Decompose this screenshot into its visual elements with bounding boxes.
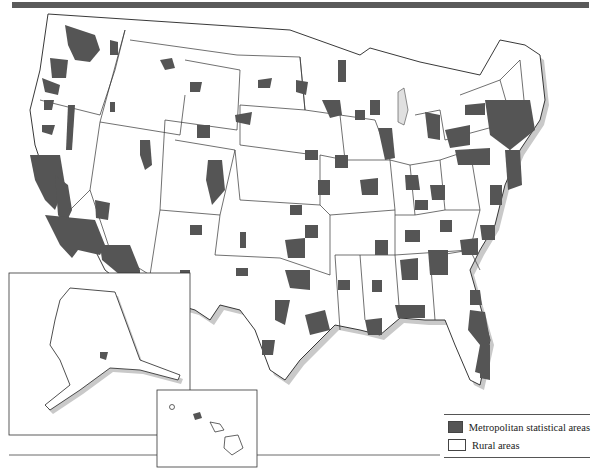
- rural-swatch: [448, 439, 466, 451]
- metro-wichita: [290, 205, 302, 215]
- metro-atlanta: [428, 250, 448, 275]
- metro-desmoines: [335, 155, 348, 168]
- map-legend: Metropolitan statistical areas Rural are…: [444, 414, 590, 458]
- metro-memphis: [375, 240, 388, 255]
- metro-knoxville: [440, 220, 452, 232]
- metro-miami: [480, 345, 490, 380]
- metro-omaha: [305, 150, 318, 160]
- metro-wy: [197, 125, 210, 138]
- metro-amarillo: [240, 232, 246, 248]
- metro-louisville: [415, 200, 428, 210]
- metro-milwaukee: [370, 100, 380, 115]
- legend-label-metro: Metropolitan statistical areas: [469, 422, 590, 433]
- metro-raleigh: [480, 225, 495, 240]
- metro-swatch: [448, 421, 463, 433]
- metro-tulsa: [305, 225, 318, 238]
- metro-gulf: [395, 305, 425, 318]
- metro-neworleans: [365, 318, 382, 335]
- legend-item-rural: Rural areas: [448, 436, 590, 454]
- hawaii-inset: [157, 390, 257, 467]
- legend-bottom-rule: [444, 457, 590, 458]
- metro-portland: [50, 58, 68, 78]
- metro-madison: [355, 110, 365, 120]
- metro-shreveport: [338, 280, 350, 290]
- metro-duluth: [338, 60, 346, 82]
- metro-sa: [262, 340, 275, 355]
- metro-nashville: [405, 230, 420, 242]
- metro-charlotte: [460, 238, 478, 255]
- metro-rochester-buffalo: [465, 103, 485, 115]
- metro-jackson: [372, 280, 382, 292]
- metro-indy: [405, 175, 420, 190]
- metro-stlouis: [360, 178, 378, 195]
- metro-dc: [490, 185, 502, 205]
- metro-lubbock: [236, 268, 248, 276]
- metro-kc: [318, 180, 330, 195]
- metro-boise: [110, 102, 115, 112]
- metro-pa: [455, 148, 490, 165]
- metro-birmingham: [400, 258, 418, 280]
- legend-top-rule: [444, 414, 590, 415]
- metro-lasvegas: [95, 200, 110, 220]
- legend-item-metro: Metropolitan statistical areas: [448, 418, 590, 436]
- metro-okc: [285, 238, 305, 258]
- metro-jax: [470, 290, 482, 305]
- us-metro-rural-map: [0, 0, 597, 474]
- metro-montana2: [190, 82, 202, 92]
- metro-abq: [190, 225, 202, 235]
- legend-label-rural: Rural areas: [472, 440, 520, 451]
- metro-spokane: [110, 40, 118, 55]
- metro-cincy: [430, 185, 445, 200]
